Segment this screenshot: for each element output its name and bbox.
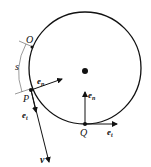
label-P: P (22, 93, 29, 104)
center-point (82, 68, 88, 74)
label-et-P: et (22, 110, 28, 121)
point-O (31, 46, 34, 49)
label-O: O (26, 34, 33, 45)
label-et-Q: et (107, 127, 113, 138)
label-en-P: en (37, 76, 45, 87)
label-s: s (15, 61, 19, 72)
kinematics-diagram: O s P Q v en et en et (0, 0, 151, 167)
label-en-Q: en (88, 90, 96, 101)
label-Q: Q (80, 127, 88, 138)
vector-en-at-P (31, 79, 62, 90)
label-v: v (40, 154, 45, 165)
arc-length-s (19, 44, 26, 92)
